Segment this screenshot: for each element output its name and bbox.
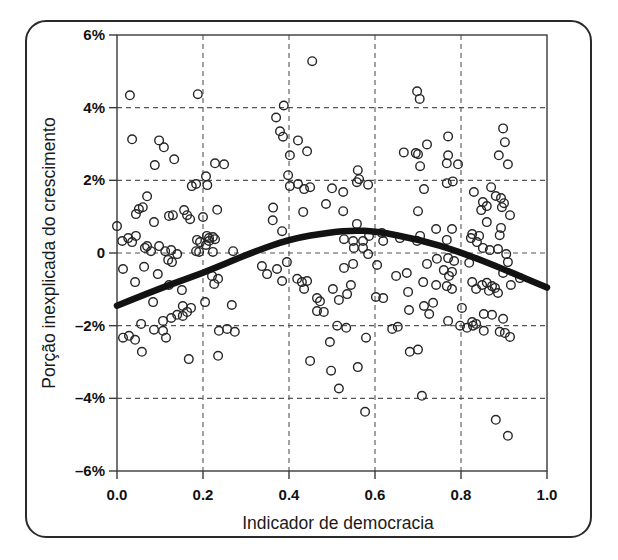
x-tick-label: 1.0 xyxy=(537,486,558,503)
data-point xyxy=(499,315,508,324)
data-point xyxy=(283,258,292,267)
data-point xyxy=(392,272,401,281)
data-point xyxy=(322,200,331,209)
data-point xyxy=(449,177,458,186)
data-point xyxy=(215,327,224,336)
data-point xyxy=(179,302,188,311)
data-point xyxy=(138,348,147,357)
data-point xyxy=(444,132,453,141)
data-point xyxy=(326,338,335,347)
data-point xyxy=(404,288,413,297)
data-point xyxy=(487,183,496,192)
data-point xyxy=(150,218,159,227)
data-point xyxy=(273,265,282,274)
data-point xyxy=(170,155,179,164)
x-tick-label: 0.0 xyxy=(107,486,128,503)
y-tick-label: –6% xyxy=(75,462,105,479)
data-point xyxy=(280,101,289,110)
data-point xyxy=(444,151,453,160)
data-point xyxy=(194,90,203,99)
data-point xyxy=(440,266,449,275)
data-point xyxy=(137,320,146,329)
data-point xyxy=(388,325,397,334)
y-tick-label: 6% xyxy=(83,26,105,43)
data-point xyxy=(504,160,513,169)
data-point xyxy=(201,298,210,307)
data-point xyxy=(379,237,388,246)
data-point xyxy=(458,304,467,313)
data-point xyxy=(335,384,344,393)
data-point xyxy=(443,179,452,188)
data-point xyxy=(504,432,513,441)
data-point xyxy=(492,416,501,425)
data-point xyxy=(423,260,432,269)
data-point xyxy=(214,352,223,361)
data-point xyxy=(220,160,229,169)
data-point xyxy=(228,301,237,310)
y-tick-label: 0 xyxy=(97,244,105,261)
data-point xyxy=(119,265,128,274)
data-point xyxy=(423,140,432,149)
data-point xyxy=(499,124,508,133)
data-point xyxy=(504,258,513,267)
data-point xyxy=(425,310,434,319)
data-point xyxy=(448,225,457,234)
y-tick-label: 4% xyxy=(83,99,105,116)
data-point xyxy=(328,184,337,193)
data-point xyxy=(178,286,187,295)
data-point xyxy=(480,327,489,336)
data-point xyxy=(308,57,317,66)
data-point xyxy=(272,113,281,122)
data-point xyxy=(494,245,503,254)
data-point xyxy=(339,188,348,197)
data-point xyxy=(394,323,403,332)
data-point xyxy=(160,143,169,152)
data-point xyxy=(278,227,287,236)
data-point xyxy=(126,91,135,100)
data-point xyxy=(432,281,441,290)
data-point xyxy=(502,250,511,259)
data-point xyxy=(229,247,238,256)
data-point xyxy=(419,278,428,287)
data-point xyxy=(286,151,295,160)
data-point xyxy=(443,159,452,168)
data-point xyxy=(306,183,315,192)
x-tick-label: 0.6 xyxy=(365,486,386,503)
data-point xyxy=(349,260,358,269)
data-point xyxy=(353,220,362,229)
data-point xyxy=(488,311,497,320)
data-point xyxy=(154,270,163,279)
data-point xyxy=(432,225,441,234)
figure: 6%4%2%0–2%–4%–6%0.00.20.40.60.81.0 Porçã… xyxy=(0,0,618,560)
data-point xyxy=(406,348,415,357)
data-point xyxy=(268,216,277,225)
x-tick-label: 0.2 xyxy=(193,486,214,503)
data-point xyxy=(203,181,212,190)
data-point xyxy=(284,171,293,180)
data-point xyxy=(263,270,272,279)
data-point xyxy=(286,182,295,191)
data-point xyxy=(403,269,412,278)
data-point xyxy=(128,135,137,144)
data-point xyxy=(495,151,504,160)
y-tick-label: 2% xyxy=(83,171,105,188)
data-point xyxy=(415,95,424,104)
data-point xyxy=(483,218,492,227)
data-point xyxy=(354,166,363,175)
data-point xyxy=(185,355,194,364)
data-point xyxy=(480,310,489,319)
data-point xyxy=(405,306,414,315)
data-point xyxy=(362,333,371,342)
data-point xyxy=(294,136,303,145)
data-point xyxy=(161,247,170,256)
x-tick-label: 0.8 xyxy=(451,486,472,503)
data-point xyxy=(339,207,348,216)
data-point xyxy=(278,277,287,286)
data-point xyxy=(131,278,140,287)
data-point xyxy=(150,325,159,334)
data-point xyxy=(470,188,479,197)
data-point xyxy=(443,236,452,245)
data-point xyxy=(140,263,149,272)
data-point xyxy=(125,332,134,341)
data-point xyxy=(231,328,240,337)
